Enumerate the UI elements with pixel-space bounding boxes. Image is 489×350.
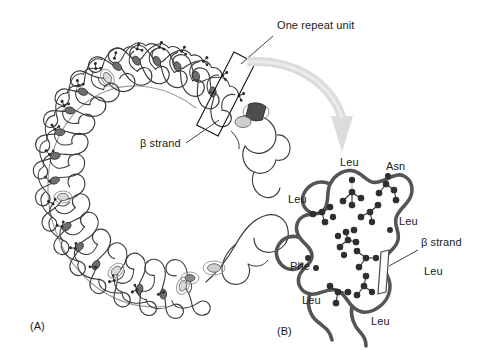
label-beta-strand-panel-a: β strand [140, 138, 181, 149]
label-beta-strand-panel-b: β strand [421, 237, 462, 248]
beta-strand-segment [378, 250, 389, 294]
residue-label-leu-bottom-left: Leu [302, 295, 321, 306]
residue-label-leu-top: Leu [340, 157, 359, 168]
residue-label-leu-left: Leu [288, 194, 307, 205]
figure-canvas: One repeat unit β strand (A) Leu Asn Leu… [0, 0, 489, 350]
residue-label-leu-bottom: Leu [371, 316, 390, 327]
residue-label-leu-right-upper: Leu [399, 216, 418, 227]
n-terminal-cap [231, 103, 290, 198]
label-one-repeat-unit: One repeat unit [277, 20, 354, 31]
c-terminal-cap [181, 215, 288, 285]
figure-graphics [0, 0, 489, 350]
residue-label-leu-right-lower: Leu [424, 266, 443, 277]
residue-label-phe: Phe [290, 261, 310, 272]
residue-label-asn: Asn [386, 161, 405, 172]
beta-strand-leader-b [389, 250, 418, 266]
panel-a-structure [30, 36, 290, 322]
repeat-units [30, 38, 247, 322]
panel-b-tag: (B) [277, 325, 292, 337]
beta-strand-leader-a [186, 120, 219, 143]
panel-a-tag: (A) [30, 320, 45, 332]
